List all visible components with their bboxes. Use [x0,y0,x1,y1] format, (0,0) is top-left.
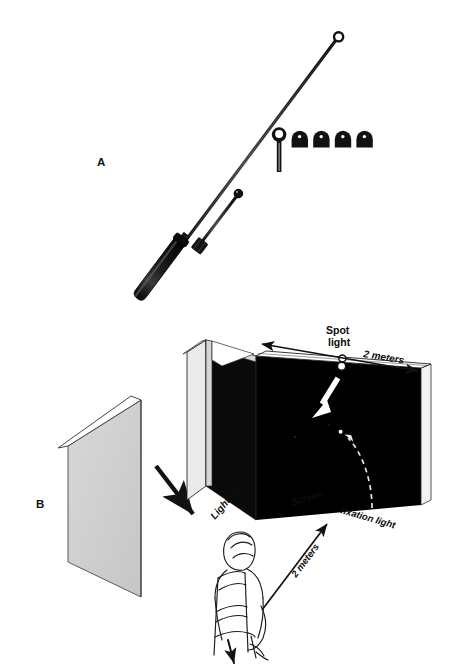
baffle-front-edge-strip [206,340,212,486]
dome-cap-body [356,131,372,148]
dome-cap-aperture [320,135,323,138]
accessory-dome-cap [313,131,329,148]
figure-container: A [0,0,459,671]
fixation-light-dot [339,430,343,434]
accessory-dome-cap [292,131,308,148]
dome-cap-body [313,131,329,148]
dome-cap-body [335,131,351,148]
screen-speck-left [294,436,296,438]
ring-rod-aperture [275,130,283,138]
figure-svg: A [0,0,459,671]
spot-light-lower-ring [338,362,346,370]
dome-cap-aperture [341,135,344,138]
screen-speck-mid [328,424,330,426]
spot-light-label-line1: Spot [326,324,350,336]
figure-background [0,0,459,671]
dome-cap-aperture [363,135,366,138]
screen-right-edge [421,364,431,505]
dome-cap-aperture [298,135,301,138]
spot-light-label-line2: light [328,336,351,348]
accessory-dome-cap [356,131,372,148]
panel-b-label: B [36,498,44,510]
short-rod-ball-highlight [236,191,238,193]
accessory-dome-cap [335,131,351,148]
short-rod-ball-tip [234,189,243,198]
dome-cap-body [292,131,308,148]
rear-baffle-panel [187,340,206,500]
panel-a-label: A [97,156,105,168]
long-wand-ring-tip [334,32,343,41]
